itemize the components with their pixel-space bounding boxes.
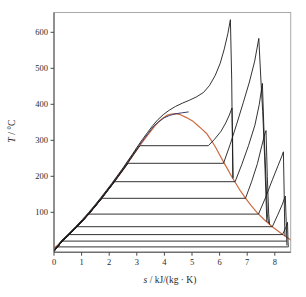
y-tick-label: 200 [35,171,48,181]
x-tick-label: 3 [135,257,139,267]
curve-isobar-95C [54,152,285,251]
x-tick-label: 4 [162,257,167,267]
curve-isobar-60C [54,196,287,251]
ts-diagram: 012345678100200300400500600 s / kJ/(kg ·… [0,0,306,297]
x-tick-label: 6 [217,257,221,267]
curve-isobar-4C [54,247,288,251]
y-tick-label: 100 [35,207,48,217]
curve-isobar-236C [54,38,267,251]
curve-layer [54,20,291,252]
x-tick-label: 5 [190,257,194,267]
curve-isobar-139C [54,131,270,252]
x-tick-label: 0 [52,257,56,267]
axis-layer [54,13,291,253]
curve-isobar-20C [54,241,287,251]
y-tick-label: 600 [35,27,48,37]
ts-diagram-plot: 012345678100200300400500600 s / kJ/(kg ·… [0,0,306,297]
x-tick-label: 2 [107,257,111,267]
plot-frame [54,13,291,253]
x-tick-label: 8 [273,257,277,267]
y-tick-label: 500 [35,63,48,73]
x-tick-label: 1 [79,257,83,267]
y-tick-label: 400 [35,99,48,109]
y-axis-title: T / °C [7,120,17,143]
x-axis-title: s / kJ/(kg · K) [144,275,197,286]
x-tick-label: 7 [245,257,249,267]
curve-isobar-185C [54,83,269,251]
curve-isobar-285C [54,108,233,251]
curve-isobar-supercritical [54,20,233,252]
curve-saturation-dome [54,114,291,249]
y-tick-label: 300 [35,135,48,145]
